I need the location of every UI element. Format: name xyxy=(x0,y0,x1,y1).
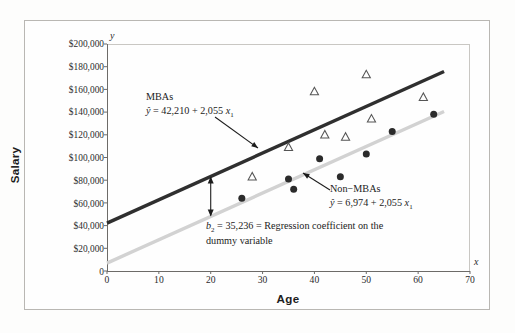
b2-annotation: b2 = 35,236 = Regression coefficient on … xyxy=(206,219,383,248)
nonmbas-annotation: Non−MBAs ŷ = 6,974 + 2,055 x1 xyxy=(330,182,413,211)
data-point-circle xyxy=(285,176,292,183)
data-point-circle xyxy=(316,155,323,162)
chart-data-layer xyxy=(0,0,515,333)
data-point-triangle xyxy=(248,172,256,180)
b2-subscript: 2 xyxy=(211,226,214,233)
figure-container: $200,000 $180,000 $160,000 $140,000 $120… xyxy=(0,0,515,333)
nonmbas-equation: ŷ = 6,974 + 2,055 x1 xyxy=(330,196,413,211)
mbas-annotation: MBAs ŷ = 42,210 + 2,055 x1 xyxy=(146,90,234,119)
b2-line-2: dummy variable xyxy=(206,234,383,248)
data-point-triangle xyxy=(419,93,427,101)
data-point-triangle xyxy=(362,70,370,78)
data-point-triangle xyxy=(341,133,349,141)
mbas-equation: ŷ = 42,210 + 2,055 x1 xyxy=(146,104,234,119)
data-point-circle xyxy=(238,195,245,202)
mbas-leader-arrow-head xyxy=(251,142,258,148)
data-point-circle xyxy=(363,151,370,158)
nonmbas-label: Non−MBAs xyxy=(330,182,413,196)
data-point-triangle xyxy=(321,130,329,138)
nonmbas-eq-rhs: = 6,974 + 2,055 xyxy=(337,197,402,208)
mbas-eq-lhs: ŷ xyxy=(146,105,151,116)
data-point-circle xyxy=(389,128,396,135)
nonmbas-eq-var-sub: 1 xyxy=(409,203,412,210)
data-point-triangle xyxy=(310,87,318,95)
nonmbas-eq-lhs: ŷ xyxy=(330,197,335,208)
mbas-leader-arrow-shaft xyxy=(215,117,258,148)
data-point-triangle xyxy=(367,115,375,123)
data-point-circle xyxy=(337,173,344,180)
b2-text: = 35,236 = Regression coefficient on the xyxy=(217,220,383,231)
data-point-circle xyxy=(290,186,297,193)
mbas-eq-rhs: = 42,210 + 2,055 xyxy=(153,105,223,116)
mbas-label: MBAs xyxy=(146,90,234,104)
mbas-eq-var-sub: 1 xyxy=(230,111,233,118)
b2-line-1: b2 = 35,236 = Regression coefficient on … xyxy=(206,219,383,234)
data-point-circle xyxy=(430,111,437,118)
